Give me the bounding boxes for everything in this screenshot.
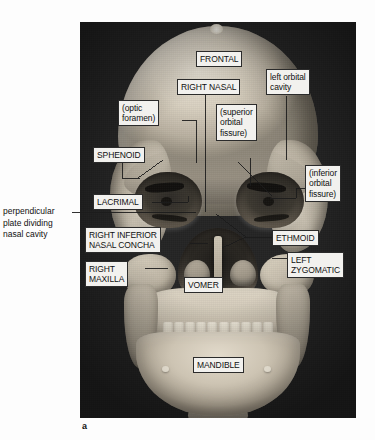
inferior-orbital-fissure-left [253, 213, 289, 223]
left-inferior-nasal-concha [230, 260, 256, 286]
mental-foramen-right [162, 366, 169, 372]
mandible-bone [136, 332, 300, 416]
left-orbital-cavity [236, 172, 304, 228]
label-mandible[interactable]: MANDIBLE [193, 357, 244, 373]
anatomy-figure: FRONTAL RIGHT NASAL left orbital cavity … [0, 0, 375, 440]
label-right-nasal[interactable]: RIGHT NASAL [177, 79, 240, 95]
perpendicular-plate-note: perpendicular plate dividing nasal cavit… [3, 206, 79, 241]
superior-orbital-fissure-left [247, 181, 287, 193]
superior-orbital-fissure-right [145, 181, 185, 193]
mental-foramen-left [264, 366, 271, 372]
panel-letter: a [82, 421, 87, 431]
label-right-inferior-nasal-concha[interactable]: RIGHT INFERIOR NASAL CONCHA [85, 227, 161, 253]
label-right-maxilla[interactable]: RIGHT MAXILLA [85, 261, 128, 287]
right-orbital-cavity [134, 172, 202, 228]
inferior-orbital-fissure-right [151, 213, 187, 223]
optic-foramen-right [161, 197, 172, 206]
label-sphenoid[interactable]: SPHENOID [93, 147, 145, 163]
label-frontal[interactable]: FRONTAL [196, 51, 242, 67]
label-lacrimal[interactable]: LACRIMAL [93, 194, 143, 210]
label-superior-orbital-fissure[interactable]: (superior orbital fissure) [216, 104, 257, 141]
label-optic-foramen[interactable]: (optic foramen) [118, 100, 159, 126]
vertex-highlight [210, 24, 223, 34]
label-inferior-orbital-fissure[interactable]: (inferior orbital fissure) [305, 165, 341, 202]
optic-foramen-left [263, 197, 274, 206]
label-vomer[interactable]: VOMER [184, 277, 223, 293]
label-left-orbital-cavity[interactable]: left orbital cavity [266, 69, 310, 95]
label-left-zygomatic[interactable]: LEFT ZYGOMATIC [287, 252, 344, 278]
label-ethmoid[interactable]: ETHMOID [272, 230, 319, 246]
